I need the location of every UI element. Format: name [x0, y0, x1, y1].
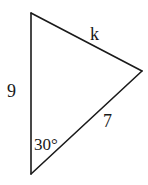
angle-label-30: 30° [34, 135, 58, 154]
side-label-9: 9 [7, 81, 16, 101]
side-label-7: 7 [103, 111, 112, 131]
triangle-diagram: k 9 7 30° [0, 0, 148, 185]
side-bottom-right [31, 71, 142, 174]
side-top-right [31, 13, 142, 71]
side-label-k: k [90, 24, 99, 44]
